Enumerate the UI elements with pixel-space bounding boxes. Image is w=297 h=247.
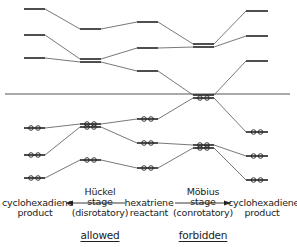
correlation-line — [45, 9, 80, 29]
correlation-line — [214, 36, 246, 47]
correlation-line — [214, 98, 246, 132]
correlation-line — [214, 61, 246, 95]
correlation-line — [45, 124, 80, 128]
correlation-line — [158, 148, 193, 168]
left-product-label: cyclohexadiene product — [2, 198, 68, 218]
correlation-line — [214, 145, 246, 156]
correlation-line — [158, 47, 193, 48]
mobius-stage-label: Möbius stage (conrotatory) — [172, 187, 234, 218]
correlation-line — [158, 98, 193, 119]
correlation-line — [45, 58, 80, 62]
correlation-line — [101, 127, 137, 143]
correlation-line — [45, 160, 80, 178]
reactant-label: hexatriene reactant — [124, 198, 174, 218]
correlation-line — [214, 148, 246, 180]
correlation-line — [158, 143, 193, 145]
allowed-label: allowed — [70, 230, 130, 240]
correlation-line — [101, 48, 137, 59]
right-product-label: cyclohexadiene product — [228, 198, 296, 218]
correlation-line — [45, 35, 80, 59]
correlation-line — [214, 11, 246, 44]
forbidden-label: forbidden — [172, 230, 234, 240]
correlation-line — [158, 22, 193, 44]
correlation-line — [101, 62, 137, 71]
correlation-line — [101, 22, 137, 29]
correlation-line — [45, 127, 80, 155]
correlation-line — [101, 119, 137, 124]
correlation-line — [158, 71, 193, 95]
correlation-line — [101, 160, 137, 168]
huckel-stage-label: Hückel stage (disrotatory) — [70, 187, 130, 218]
